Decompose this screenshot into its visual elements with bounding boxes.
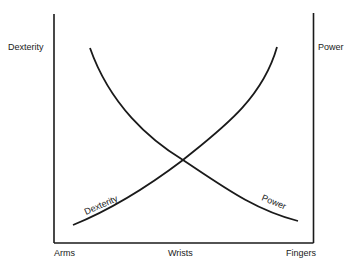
right-axis-label: Power <box>318 42 344 52</box>
left-axis-label: Dexterity <box>8 42 44 52</box>
x-label-fingers: Fingers <box>286 248 316 258</box>
diagram-canvas: Dexterity Power <box>0 0 354 267</box>
x-label-wrists: Wrists <box>168 248 193 258</box>
x-label-arms: Arms <box>54 248 75 258</box>
